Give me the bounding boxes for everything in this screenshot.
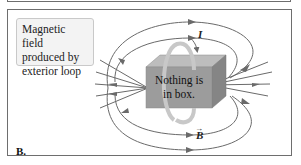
field-symbol: B <box>196 129 203 141</box>
panel-label: B. <box>16 145 26 157</box>
caption-line: Magnetic field <box>22 22 88 50</box>
box-label-line: in box. <box>146 87 212 101</box>
current-symbol: I <box>198 28 202 40</box>
caption-line: produced by <box>22 50 88 64</box>
box-label: Nothing is in box. <box>146 73 212 101</box>
caption-box: Magnetic field produced by exterior loop <box>16 18 94 66</box>
caption-line: exterior loop <box>22 64 88 78</box>
box-label-line: Nothing is <box>146 73 212 87</box>
